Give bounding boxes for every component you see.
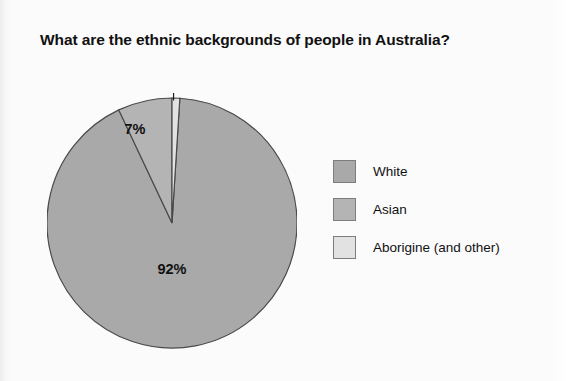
legend-swatch-asian [333, 198, 356, 221]
pie-label-asian: 7% [125, 121, 146, 137]
pie-label-white: 92% [157, 261, 186, 277]
legend-label-aborigine: Aborigine (and other) [373, 240, 500, 255]
chart-page: What are the ethnic backgrounds of peopl… [0, 0, 572, 381]
legend-item-asian[interactable]: Asian [333, 190, 558, 228]
legend-item-aborigine[interactable]: Aborigine (and other) [333, 228, 558, 266]
legend-label-white: White [373, 164, 408, 179]
legend-item-white[interactable]: White [333, 152, 558, 190]
pie-chart: 1% 7% 92% [47, 93, 297, 353]
legend: White Asian Aborigine (and other) [333, 152, 558, 266]
page-title: What are the ethnic backgrounds of peopl… [40, 31, 540, 49]
legend-swatch-white [333, 160, 356, 183]
legend-swatch-aborigine [333, 236, 356, 259]
pie-chart-svg: 1% 7% 92% [47, 93, 297, 353]
legend-label-asian: Asian [373, 202, 407, 217]
